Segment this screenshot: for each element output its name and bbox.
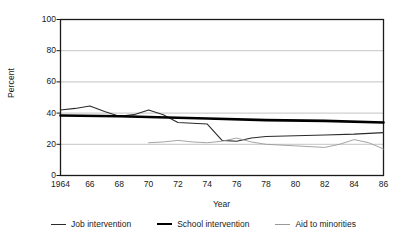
x-tick-label: 80 [291, 180, 300, 189]
x-tick-label: 66 [85, 180, 94, 189]
legend-item: Aid to minorities [275, 219, 355, 229]
x-tick-label: 84 [349, 180, 358, 189]
legend-item: School intervention [157, 219, 249, 229]
legend-line-swatch-job [51, 224, 66, 225]
legend-label: Aid to minorities [295, 219, 355, 229]
x-tick-label: 86 [379, 180, 388, 189]
legend-label: Job intervention [71, 219, 131, 229]
series-line [61, 115, 384, 122]
x-tick-label: 78 [261, 180, 270, 189]
x-tick-label: 72 [173, 180, 182, 189]
legend-line-swatch-school [157, 223, 172, 225]
series-line [149, 138, 384, 149]
legend-line-swatch-aid [275, 224, 290, 225]
chart-legend: Job interventionSchool interventionAid t… [0, 214, 407, 234]
x-tick-label: 74 [203, 180, 212, 189]
x-tick-label: 76 [232, 180, 241, 189]
x-axis-title: Year [60, 199, 383, 209]
x-tick-label: 1964 [51, 180, 70, 189]
legend-label: School intervention [177, 219, 249, 229]
legend-item: Job intervention [51, 219, 131, 229]
x-tick-label: 68 [114, 180, 123, 189]
x-tick-label: 82 [320, 180, 329, 189]
line-chart: Percent 020406080100 1964666870727476788… [0, 0, 407, 241]
plot-frame [61, 20, 384, 176]
series-line [61, 106, 384, 141]
x-tick-label: 70 [144, 180, 153, 189]
